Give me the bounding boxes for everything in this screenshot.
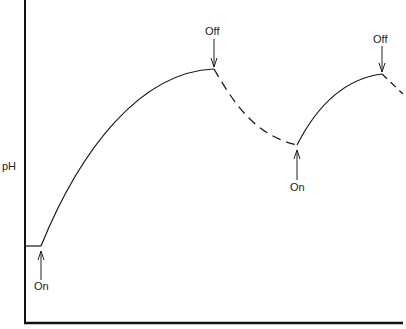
rise-curve-1 bbox=[41, 69, 214, 246]
on-label-2: On bbox=[290, 182, 305, 193]
on-label-1: On bbox=[34, 281, 49, 292]
arrow-up-icon bbox=[294, 150, 300, 180]
arrow-up-icon bbox=[38, 251, 44, 280]
off-label-2: Off bbox=[373, 34, 387, 45]
arrow-down-icon bbox=[379, 46, 385, 72]
arrow-down-icon bbox=[211, 39, 217, 67]
chart-canvas bbox=[0, 0, 406, 329]
y-axis-label: pH bbox=[2, 161, 16, 172]
fall-curve-2 bbox=[382, 74, 403, 94]
off-label-1: Off bbox=[205, 26, 219, 37]
rise-curve-2 bbox=[297, 74, 382, 145]
fall-curve-1 bbox=[214, 69, 297, 145]
